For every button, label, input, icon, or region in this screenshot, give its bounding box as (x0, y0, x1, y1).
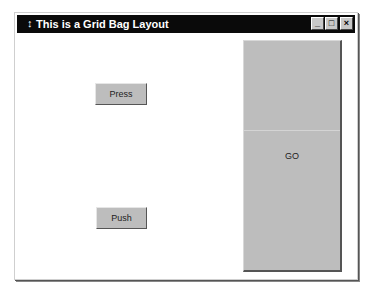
push-button-label: Push (111, 213, 132, 223)
grid-bag-window: ↕ This is a Grid Bag Layout _ □ × Press … (14, 12, 358, 280)
press-button[interactable]: Press (95, 83, 147, 105)
push-button[interactable]: Push (96, 207, 147, 229)
title-bar[interactable]: ↕ This is a Grid Bag Layout _ □ × (17, 15, 355, 33)
go-button-divider (244, 130, 340, 131)
press-button-label: Press (109, 89, 132, 99)
go-button[interactable]: GO (243, 40, 342, 272)
go-button-label: GO (285, 151, 299, 161)
close-button[interactable]: × (340, 17, 353, 30)
window-title: This is a Grid Bag Layout (36, 18, 169, 30)
window-menu-icon[interactable]: ↕ (27, 17, 33, 29)
minimize-button[interactable]: _ (311, 17, 324, 30)
maximize-button[interactable]: □ (325, 17, 338, 30)
